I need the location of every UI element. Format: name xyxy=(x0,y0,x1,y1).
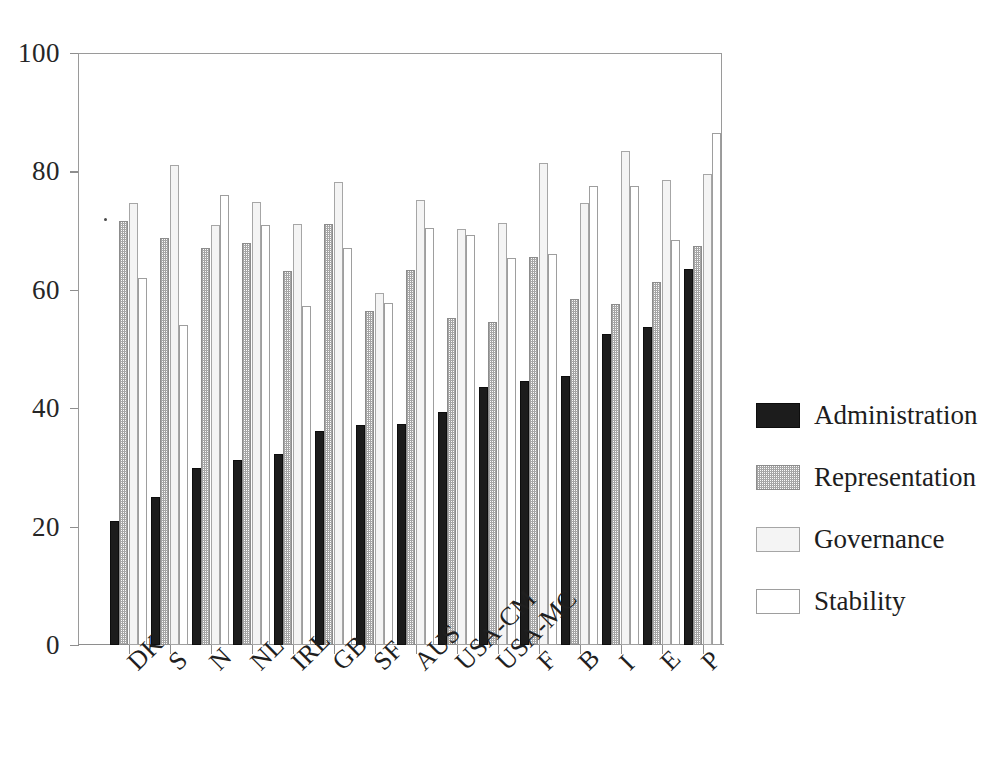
bar-governance xyxy=(621,151,630,645)
bar-governance xyxy=(334,182,343,645)
bar-group xyxy=(479,53,516,645)
bar-governance xyxy=(211,225,220,645)
x-axis-tick-label: I xyxy=(615,651,640,676)
bar-administration xyxy=(356,425,365,645)
bar-stability xyxy=(220,195,229,645)
bar-representation xyxy=(160,238,169,645)
bar-governance xyxy=(293,224,302,645)
bar-representation xyxy=(488,322,497,645)
x-axis-tick-label: B xyxy=(574,645,605,676)
bar-stability xyxy=(507,258,516,645)
bar-governance xyxy=(580,203,589,645)
bar-governance xyxy=(416,200,425,645)
scan-speck-artifact xyxy=(104,218,107,221)
bar-governance xyxy=(539,163,548,645)
bar-administration xyxy=(274,454,283,645)
legend-item-stability: Stability xyxy=(756,570,976,632)
legend-swatch-stability xyxy=(756,589,800,614)
bar-stability xyxy=(384,303,393,645)
bar-stability xyxy=(548,254,557,645)
y-axis-tick-label: 100 xyxy=(0,40,60,67)
legend-item-representation: Representation xyxy=(756,446,976,508)
chart-legend: AdministrationRepresentationGovernanceSt… xyxy=(756,384,976,632)
legend-label: Stability xyxy=(814,588,906,615)
bar-administration xyxy=(684,269,693,646)
bar-representation xyxy=(324,224,333,645)
legend-swatch-governance xyxy=(756,527,800,552)
bar-governance xyxy=(662,180,671,645)
y-axis-tick-label: 0 xyxy=(0,632,60,659)
bar-representation xyxy=(693,246,702,645)
bar-representation xyxy=(652,282,661,645)
x-axis-tick-label: S xyxy=(164,647,193,676)
x-axis-tick-label: N xyxy=(205,644,237,676)
bar-stability xyxy=(630,186,639,645)
y-axis-tick-label: 80 xyxy=(0,158,60,185)
bar-administration xyxy=(643,327,652,645)
legend-item-administration: Administration xyxy=(756,384,976,446)
bar-stability xyxy=(671,240,680,645)
bar-group xyxy=(274,53,311,645)
bar-administration xyxy=(602,334,611,645)
bar-group xyxy=(602,53,639,645)
bar-group xyxy=(151,53,188,645)
bar-group xyxy=(561,53,598,645)
bar-group xyxy=(438,53,475,645)
bar-stability xyxy=(179,325,188,645)
legend-item-governance: Governance xyxy=(756,508,976,570)
bar-stability xyxy=(261,225,270,645)
bar-group xyxy=(397,53,434,645)
legend-label: Governance xyxy=(814,526,944,553)
bar-group xyxy=(356,53,393,645)
bar-representation xyxy=(283,271,292,645)
bar-governance xyxy=(129,203,138,645)
bar-group xyxy=(684,53,721,645)
bar-governance xyxy=(170,165,179,645)
bar-representation xyxy=(611,304,620,645)
bar-stability xyxy=(712,133,721,645)
bar-stability xyxy=(302,306,311,645)
bar-administration xyxy=(315,431,324,645)
y-axis-tick-label: 40 xyxy=(0,395,60,422)
bar-stability xyxy=(138,278,147,645)
bar-governance xyxy=(375,293,384,645)
bar-stability xyxy=(589,186,598,645)
x-axis-tick-label: F xyxy=(533,647,562,676)
bar-administration xyxy=(438,412,447,645)
bar-governance xyxy=(703,174,712,645)
bar-administration xyxy=(151,497,160,645)
bar-group xyxy=(233,53,270,645)
bar-representation xyxy=(406,270,415,645)
bar-administration xyxy=(233,460,242,645)
bar-representation xyxy=(119,221,128,645)
bar-stability xyxy=(343,248,352,645)
bar-representation xyxy=(447,318,456,645)
x-axis-tick-label: P xyxy=(697,647,726,676)
y-axis-tick-label: 60 xyxy=(0,276,60,303)
bar-group xyxy=(520,53,557,645)
bar-administration xyxy=(110,521,119,645)
bar-group xyxy=(110,53,147,645)
legend-swatch-representation xyxy=(756,465,800,490)
bar-representation xyxy=(365,311,374,645)
bar-governance xyxy=(457,229,466,645)
bar-group xyxy=(315,53,352,645)
legend-swatch-administration xyxy=(756,403,800,428)
bar-stability xyxy=(425,228,434,645)
bar-chart-figure: 020406080100 DKSNNLIRLGBSFAUSUSA-CMUSA-M… xyxy=(0,0,984,757)
bar-administration xyxy=(479,387,488,645)
bar-group xyxy=(192,53,229,645)
bar-administration xyxy=(397,424,406,645)
bar-governance xyxy=(252,202,261,645)
bar-representation xyxy=(201,248,210,645)
bar-administration xyxy=(192,468,201,645)
legend-label: Representation xyxy=(814,464,976,491)
bar-representation xyxy=(242,243,251,645)
bar-governance xyxy=(498,223,507,645)
legend-label: Administration xyxy=(814,402,978,429)
bar-representation xyxy=(529,257,538,645)
x-axis-tick-label: E xyxy=(656,646,686,676)
bar-stability xyxy=(466,235,475,645)
y-axis-tick-label: 20 xyxy=(0,513,60,540)
bar-group xyxy=(643,53,680,645)
